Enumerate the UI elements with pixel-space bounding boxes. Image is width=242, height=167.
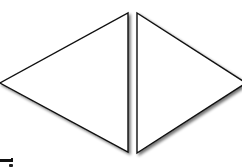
cropped-glyph-fragment [0, 158, 14, 167]
left-triangle [0, 13, 128, 152]
diagram-canvas [0, 0, 242, 167]
triangles-svg [0, 0, 242, 167]
right-triangle [137, 13, 242, 153]
